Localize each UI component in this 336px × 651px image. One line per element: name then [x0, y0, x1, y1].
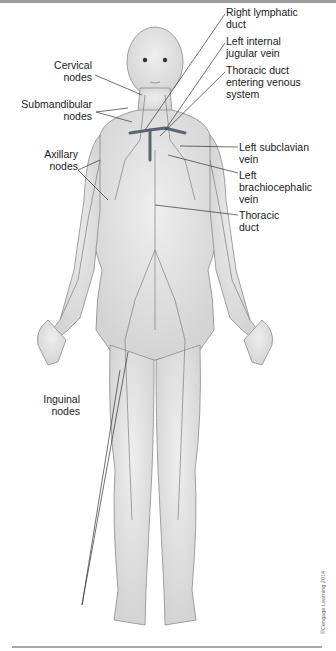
bottom-divider [12, 646, 322, 648]
label-left-internal-jugular-vein: Left internal jugular vein [226, 35, 281, 59]
label-thoracic-duct-entering-venous-system: Thoracic duct entering venous system [226, 64, 301, 100]
label-left-brachiocephalic-vein: Left brachiocephalic vein [239, 169, 312, 205]
label-right-lymphatic-duct: Right lymphatic duct [226, 6, 298, 30]
copyright-notice: ©Cengage Learning 2014 [320, 571, 326, 634]
label-axillary-nodes: Axillary nodes [24, 148, 78, 172]
label-cervical-nodes: Cervical nodes [30, 59, 92, 83]
label-thoracic-duct: Thoracic duct [239, 209, 279, 233]
label-left-subclavian-vein: Left subclavian vein [239, 141, 309, 165]
label-submandibular-nodes: Submandibular nodes [14, 98, 92, 122]
label-inguinal-nodes: Inguinal nodes [30, 393, 80, 417]
